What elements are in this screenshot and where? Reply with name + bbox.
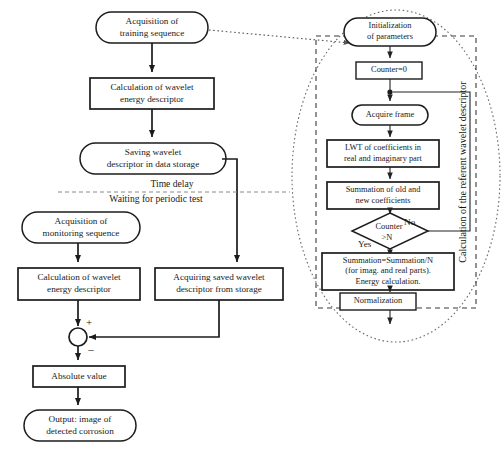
branch-label-yes: Yes — [358, 239, 372, 249]
referent-descriptor-ellipse — [292, 10, 500, 342]
branch-label-no: No — [404, 217, 416, 227]
node-calc-wavelet-2-line-1: energy descriptor — [47, 284, 111, 294]
node-summation-old-new-line-0: Summation of old and — [346, 185, 421, 194]
node-summation-divide-line-1: (for imag. and real parts). — [345, 266, 431, 275]
node-acquiring-saved-line-0: Acquiring saved wavelet — [173, 272, 265, 282]
node-saving-wavelet-line-1: descriptor in data storage — [107, 159, 200, 169]
summing-junction — [69, 328, 87, 346]
node-acq-training-line-0: Acquisition of — [126, 16, 180, 26]
node-counter-check-line-1: >N — [382, 233, 393, 242]
node-lwt-line-0: LWT of coefficients in — [345, 143, 422, 152]
node-calc-wavelet-1-line-1: energy descriptor — [120, 94, 184, 104]
node-calc-wavelet-2-line-0: Calculation of wavelet — [37, 272, 121, 282]
node-summation-divide-line-2: Energy calculation. — [356, 277, 421, 286]
node-init-params-line-0: Initialization — [369, 21, 413, 30]
node-acq-training-line-1: training sequence — [120, 28, 185, 38]
node-acq-monitoring-line-1: monitoring sequence — [43, 228, 120, 238]
node-calc-wavelet-1-line-0: Calculation of wavelet — [110, 82, 194, 92]
time-delay-label: Time delay — [150, 178, 193, 189]
node-lwt-line-1: real and imaginary part — [344, 154, 423, 163]
flowchart-diagram: Calculation of the referent wavelet desc… — [0, 0, 502, 450]
node-counter-check-line-0: Counter — [376, 222, 403, 231]
summing-minus-sign: – — [87, 343, 94, 355]
summing-plus-sign: + — [86, 316, 92, 328]
node-output-corrosion-line-0: Output: image of — [49, 414, 113, 424]
node-acq-monitoring-line-0: Acquisition of — [55, 216, 109, 226]
node-summation-divide-line-0: Summation=Summation/N — [343, 256, 433, 265]
node-counter-zero-label: Counter=0 — [371, 65, 407, 74]
edge-saving-to-acquiring — [222, 159, 237, 262]
node-output-corrosion-line-1: detected corrosion — [46, 426, 114, 436]
node-summation-old-new-line-1: new coefficients — [356, 196, 411, 205]
node-saving-wavelet-line-0: Saving wavelet — [125, 147, 182, 157]
referent-descriptor-caption: Calculation of the referent wavelet desc… — [457, 81, 468, 263]
edge-acquiring-to-sum — [89, 300, 219, 337]
waiting-periodic-test-label: Waiting for periodic test — [109, 193, 203, 204]
node-init-params-line-1: of parameters — [367, 32, 413, 41]
node-acquire-frame-label: Acquire frame — [366, 110, 415, 119]
node-acquiring-saved-line-1: descriptor from storage — [176, 284, 262, 294]
node-absolute-value-label: Absolute value — [51, 371, 106, 381]
node-normalization-label: Normalization — [354, 296, 403, 305]
flowchart-canvas: Calculation of the referent wavelet desc… — [0, 0, 502, 450]
